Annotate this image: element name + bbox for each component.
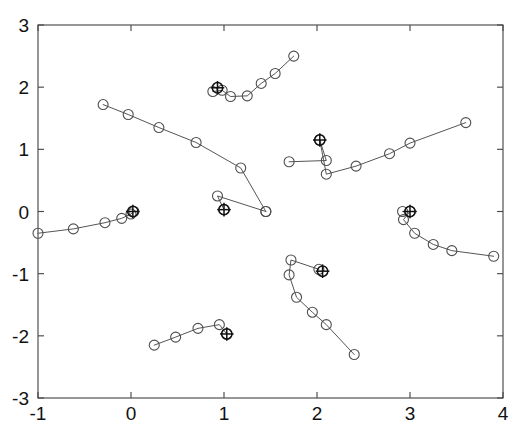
y-tick-label-2: -1: [12, 264, 29, 285]
series-line: [103, 105, 266, 212]
series-trajectory-7-bottom-left-ascending: [149, 320, 233, 351]
cluster-marker: [316, 264, 330, 278]
series-trajectory-8-left-ascending-to-origin: [33, 205, 140, 239]
series-trajectory-3-upper-center-ascending: [208, 51, 299, 101]
series-line: [289, 260, 354, 354]
x-tick-label-0: -1: [30, 403, 47, 424]
x-tick-label-3: 2: [312, 403, 323, 424]
cluster-marker: [217, 203, 231, 217]
tick-labels: -101234-3-2-10123: [12, 15, 509, 424]
x-tick-label-4: 3: [405, 403, 416, 424]
y-tick-label-3: 0: [18, 202, 29, 223]
y-tick-label-4: 1: [18, 139, 29, 160]
scatter-plot-figure: -101234-3-2-10123: [0, 0, 522, 446]
y-tick-label-6: 3: [18, 15, 29, 36]
series-trajectory-2-center-to-cluster-origin: [212, 191, 270, 217]
series-line: [213, 56, 294, 96]
plot-canvas: -101234-3-2-10123: [0, 0, 522, 446]
x-tick-label-2: 1: [219, 403, 230, 424]
series-trajectory-4-right-v-shape-ascending: [284, 118, 471, 180]
cluster-marker: [211, 81, 225, 95]
series-trajectory-1-upper-left-descending: [98, 100, 271, 217]
y-tick-label-5: 2: [18, 77, 29, 98]
cluster-marker: [313, 133, 327, 147]
series-trajectory-5-right-lower-descending: [398, 205, 499, 262]
cluster-marker: [126, 205, 140, 219]
x-tick-label-1: 0: [126, 403, 137, 424]
x-tick-label-5: 4: [498, 403, 509, 424]
series-line: [403, 212, 494, 257]
data-series-group: [33, 51, 499, 359]
series-trajectory-6-bottom-center-j-curve: [284, 255, 359, 359]
series-line: [289, 123, 466, 175]
y-tick-label-0: -3: [12, 388, 29, 409]
y-tick-label-1: -2: [12, 326, 29, 347]
